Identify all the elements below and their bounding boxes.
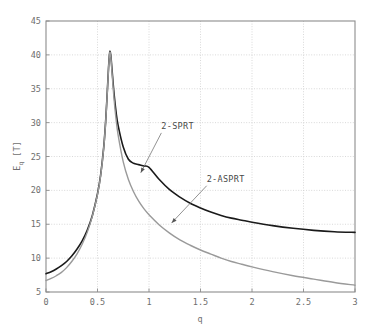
x-tick-label: 0.5 xyxy=(90,297,105,307)
y-tick-label: 20 xyxy=(31,185,41,195)
y-tick-label: 30 xyxy=(31,118,41,128)
y-tick-label: 40 xyxy=(31,50,41,60)
svg-text:Eq [T]: Eq [T] xyxy=(12,141,25,170)
x-tick-label: 2 xyxy=(249,297,254,307)
x-tick-labels: 00.511.522.53 xyxy=(43,297,357,307)
y-tick-labels: 51015202530354045 xyxy=(31,16,41,297)
chart-figure: 00.511.522.53 51015202530354045 q Eq [T]… xyxy=(0,0,371,334)
x-tick-label: 0 xyxy=(43,297,48,307)
annotation-label-2-asprt: 2-ASPRT xyxy=(207,174,245,184)
y-tick-label: 10 xyxy=(31,253,41,263)
y-tick-label: 25 xyxy=(31,152,41,162)
y-tick-label: 45 xyxy=(31,16,41,26)
y-axis-label-unit: [T] xyxy=(12,141,22,161)
x-axis-label: q xyxy=(197,314,202,324)
y-axis-label: Eq [T] xyxy=(12,141,25,170)
x-tick-label: 2.5 xyxy=(296,297,311,307)
x-tick-label: 1 xyxy=(146,297,151,307)
y-tick-label: 35 xyxy=(31,84,41,94)
y-tick-label: 5 xyxy=(36,287,41,297)
annotation-label-2-sprt: 2-SPRT xyxy=(161,121,194,131)
x-tick-label: 1.5 xyxy=(193,297,208,307)
x-tick-label: 3 xyxy=(352,297,357,307)
y-tick-label: 15 xyxy=(31,219,41,229)
